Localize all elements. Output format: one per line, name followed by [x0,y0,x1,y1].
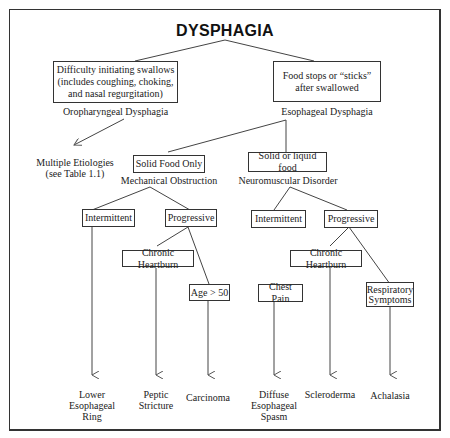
outcome-scleroderma: Scleroderma [300,389,360,400]
chest-pain-box: Chest Pain [258,284,303,302]
outcome-line: Esophageal [67,400,117,411]
outcome-line: Esophageal [249,400,299,411]
outcome-line: Stricture [131,400,181,411]
oropharyngeal-label: Oropharyngeal Dysphagia [53,106,178,117]
outcome-line: (see Table 1.1) [30,168,120,179]
outcome-line: Achalasia [362,390,418,401]
age-over-50-box: Age > 50 [189,284,230,301]
outcome-carcinoma: Carcinoma [181,392,235,403]
symptom-line: Food stops or “sticks” [283,70,372,82]
neuro-progressive-box: Progressive [324,210,378,228]
respiratory-symptoms-box: Respiratory Symptoms [366,282,414,307]
symptom-line: Difficulty initiating swallows [57,64,175,76]
multiple-etiologies-outcome: Multiple Etiologies (see Table 1.1) [30,157,120,179]
esophageal-label: Esophageal Dysphagia [273,106,381,117]
symptom-line: and nasal regurgitation) [68,88,163,100]
mech-chronic-heartburn-box: Chronic Heartburn [122,250,194,267]
neuromuscular-disorder-label: Neuromuscular Disorder [238,175,338,186]
outcome-line: Carcinoma [181,392,235,403]
symptom-line: (includes coughing, choking, [57,76,173,88]
outcome-line: Spasm [249,411,299,422]
outcome-line: Multiple Etiologies [30,157,120,168]
solid-or-liquid-food-box: Solid or liquid food [248,152,327,172]
oropharyngeal-symptom-box: Difficulty initiating swallows (includes… [53,61,178,103]
outcome-lower-esophageal-ring: Lower Esophageal Ring [67,389,117,422]
outcome-line: Scleroderma [300,389,360,400]
outcome-diffuse-esophageal-spasm: Diffuse Esophageal Spasm [249,389,299,422]
outcome-achalasia: Achalasia [362,390,418,401]
outcome-line: Lower [67,389,117,400]
mech-progressive-box: Progressive [165,209,217,227]
outcome-peptic-stricture: Peptic Stricture [131,389,181,411]
outcome-line: Ring [67,411,117,422]
neuro-chronic-heartburn-box: Chronic Heartburn [290,250,362,267]
box-line: Symptoms [369,295,412,305]
symptom-line: after swallowed [295,82,359,94]
mechanical-obstruction-label: Mechanical Obstruction [118,175,220,186]
diagram-title: DYSPHAGIA [0,22,450,40]
mech-intermittent-box: Intermittent [82,209,135,227]
outcome-line: Diffuse [249,389,299,400]
neuro-intermittent-box: Intermittent [251,210,306,228]
outcome-line: Peptic [131,389,181,400]
esophageal-symptom-box: Food stops or “sticks” after swallowed [273,61,381,102]
solid-food-only-box: Solid Food Only [133,155,205,173]
box-line: Respiratory [367,285,414,295]
